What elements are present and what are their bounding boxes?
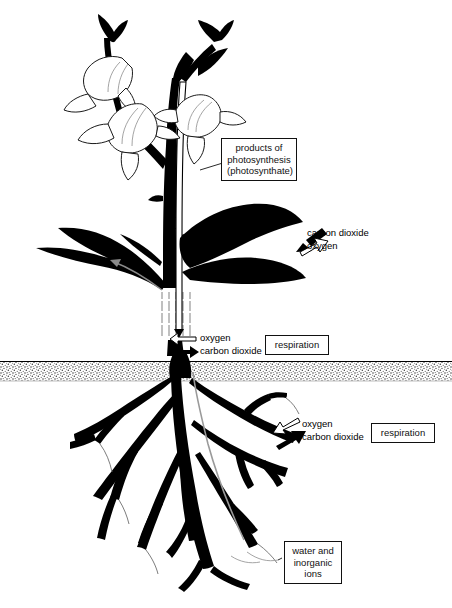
leaf-oxygen-label: oxygen: [307, 240, 338, 252]
respiration-stem-label: respiration: [271, 339, 323, 351]
plant-illustration: [0, 0, 452, 608]
diagram-canvas: products of photosynthesis (photosynthat…: [0, 0, 452, 608]
water-ions-line-1: water and: [290, 545, 336, 557]
callout-respiration-root: respiration: [371, 423, 435, 443]
respiration-root-label: respiration: [377, 427, 429, 439]
leaf-carbon-dioxide-label: carbon dioxide: [307, 227, 369, 239]
stem-oxygen-label: oxygen: [200, 332, 231, 344]
photosynthate-line-2: photosynthesis: [227, 154, 291, 166]
photosynthate-line-1: products of: [227, 142, 291, 154]
callout-water-and-inorganic-ions: water and inorganic ions: [284, 541, 342, 584]
callout-respiration-stem: respiration: [265, 335, 329, 355]
water-ions-line-3: ions: [290, 568, 336, 580]
root-carbon-dioxide-label: carbon dioxide: [302, 431, 364, 443]
water-ions-line-2: inorganic: [290, 557, 336, 569]
stem-carbon-dioxide-label: carbon dioxide: [200, 345, 262, 357]
root-system: [70, 376, 299, 592]
callout-photosynthate: products of photosynthesis (photosynthat…: [221, 138, 297, 181]
water-uptake-leader-lines: [231, 552, 278, 563]
photosynthate-line-3: (photosynthate): [227, 165, 291, 177]
soil: [0, 362, 452, 382]
root-oxygen-label: oxygen: [302, 418, 333, 430]
